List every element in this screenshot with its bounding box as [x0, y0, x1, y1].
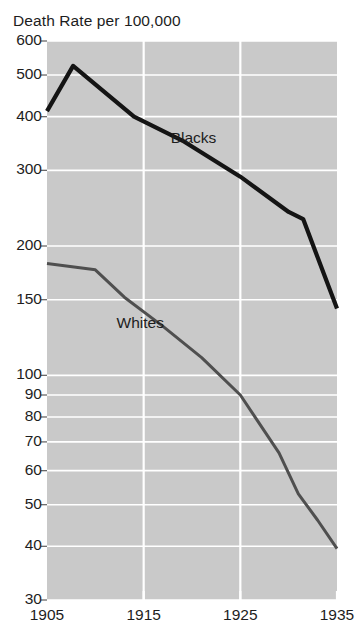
- y-tick-label: 70: [0, 432, 42, 450]
- y-tick-label: 100: [0, 365, 42, 383]
- series-label-blacks: Blacks: [171, 129, 217, 147]
- x-tick-label: 1915: [109, 606, 179, 624]
- x-tick-label: 1935: [302, 606, 363, 624]
- y-tick-label: 40: [0, 536, 42, 554]
- x-tick-label: 1925: [205, 606, 275, 624]
- plot-area: [0, 0, 363, 642]
- y-tick-label: 200: [0, 236, 42, 254]
- y-axis-ticks: [41, 41, 47, 600]
- plot-background: [47, 41, 337, 600]
- y-tick-label: 80: [0, 407, 42, 425]
- series-label-whites: Whites: [117, 314, 164, 332]
- y-tick-label: 400: [0, 107, 42, 125]
- y-tick-label: 60: [0, 461, 42, 479]
- y-tick-label: 600: [0, 31, 42, 49]
- y-tick-label: 500: [0, 65, 42, 83]
- y-tick-label: 150: [0, 290, 42, 308]
- death-rate-line-chart: Death Rate per 100,000 60050040030020015…: [0, 0, 363, 642]
- y-tick-label: 50: [0, 495, 42, 513]
- y-tick-label: 90: [0, 385, 42, 403]
- x-tick-label: 1905: [12, 606, 82, 624]
- y-tick-label: 300: [0, 160, 42, 178]
